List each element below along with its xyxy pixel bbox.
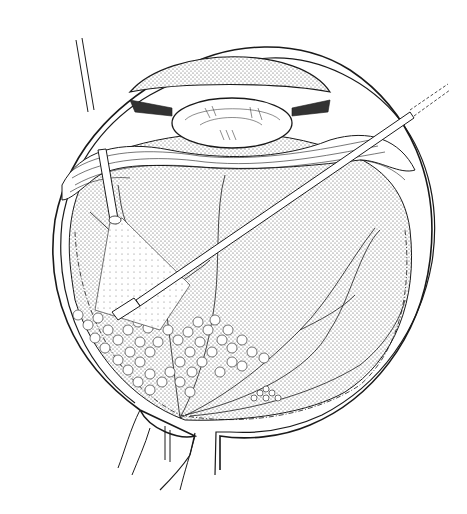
eye-surgery-illustration <box>0 0 467 514</box>
cornea <box>130 57 330 92</box>
iris-right <box>292 100 330 116</box>
optic-nerve <box>118 410 195 490</box>
iris-left <box>130 100 172 116</box>
lens <box>172 98 292 148</box>
